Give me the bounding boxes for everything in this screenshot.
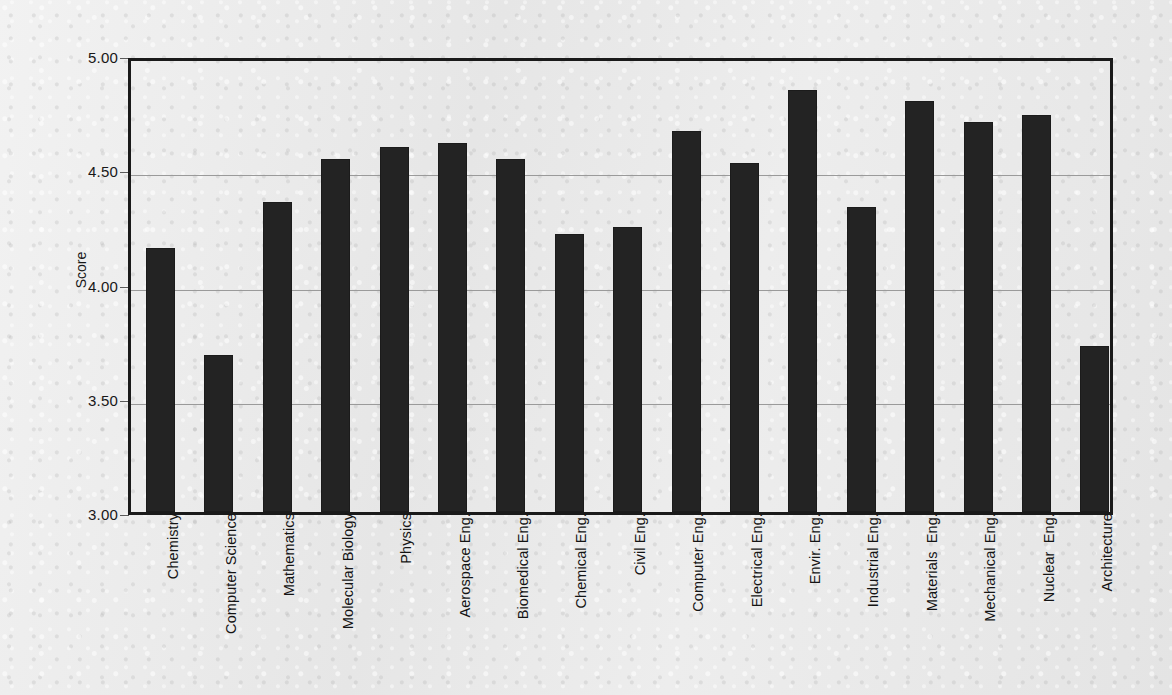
x-axis-tick-label: Chemistry [165, 513, 181, 683]
y-axis-tick-mark [120, 515, 129, 516]
x-axis-tick-label: Materials Eng. [924, 513, 940, 683]
bar [555, 234, 584, 512]
bars-layer [131, 61, 1110, 512]
bar [204, 355, 233, 512]
bar-chart: Score 5.004.504.003.503.00 ChemistryComp… [0, 0, 1172, 695]
y-axis-tick-label: 3.50 [62, 392, 118, 409]
bar [496, 159, 525, 512]
x-axis-tick-label: Computer Science [223, 513, 239, 683]
bar [905, 101, 934, 512]
x-axis-tick-label: Computer Eng. [690, 513, 706, 683]
x-axis-tick-label: Architecture [1099, 513, 1115, 683]
x-axis-tick-label: Aerospace Eng. [457, 513, 473, 683]
x-axis-tick-label: Physics [398, 513, 414, 683]
x-axis-tick-label: Biomedical Eng. [515, 513, 531, 683]
bar [613, 227, 642, 512]
bar [788, 90, 817, 512]
bar [1080, 346, 1109, 512]
x-axis-tick-label: Chemical Eng. [573, 513, 589, 683]
y-axis-tick-label: 3.00 [62, 506, 118, 523]
y-axis-tick-label: 4.00 [62, 278, 118, 295]
x-axis-tick-label: Envir. Eng. [807, 513, 823, 683]
bar [263, 202, 292, 512]
bar [847, 207, 876, 512]
bar [1022, 115, 1051, 512]
bar [438, 143, 467, 512]
x-axis-tick-label: Mechanical Eng. [982, 513, 998, 683]
bar [672, 131, 701, 512]
x-axis-tick-label: Nuclear Eng. [1041, 513, 1057, 683]
x-axis-tick-label: Industrial Eng. [865, 513, 881, 683]
bar [321, 159, 350, 512]
bar [730, 163, 759, 512]
x-axis-tick-label: Civil Eng. [632, 513, 648, 683]
plot-area [128, 58, 1113, 515]
x-axis-tick-label: Mathematics [281, 513, 297, 683]
x-axis-tick-label: Electrical Eng. [749, 513, 765, 683]
bar [146, 248, 175, 512]
bar [964, 122, 993, 512]
x-axis-tick-label: Molecular Biology [340, 513, 356, 683]
y-axis-tick-label: 4.50 [62, 163, 118, 180]
bar [380, 147, 409, 512]
y-axis-tick-label: 5.00 [62, 49, 118, 66]
